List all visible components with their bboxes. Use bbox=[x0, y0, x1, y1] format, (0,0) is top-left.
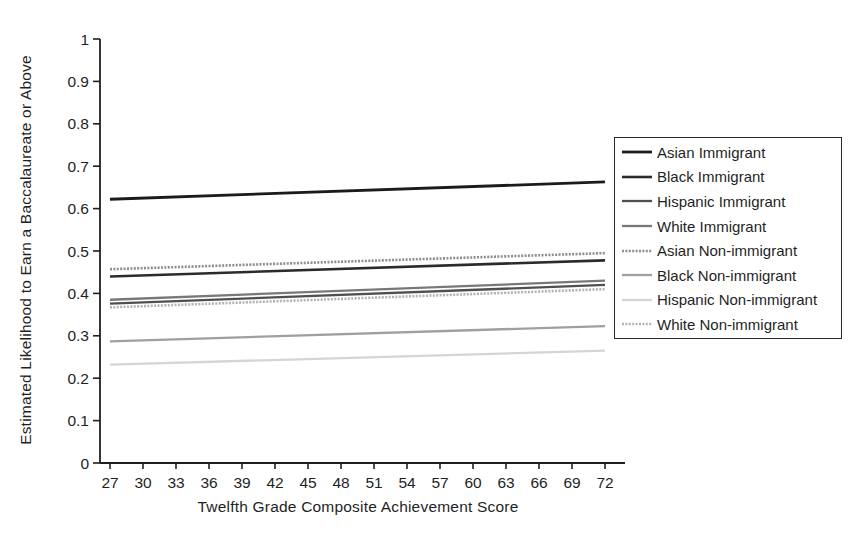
legend-item-label: White Non-immigrant bbox=[657, 316, 798, 333]
legend-item-label: Hispanic Non-immigrant bbox=[657, 291, 817, 308]
x-tick-label: 54 bbox=[398, 474, 416, 491]
y-tick-label: 0.3 bbox=[67, 327, 89, 344]
legend-item-label: White Immigrant bbox=[657, 218, 766, 235]
y-tick-label: 0.8 bbox=[67, 115, 89, 132]
y-tick-label: 0.5 bbox=[67, 243, 89, 260]
x-tick-label: 27 bbox=[101, 474, 118, 491]
x-tick-label: 33 bbox=[167, 474, 184, 491]
series-line-asian-non-immigrant bbox=[110, 253, 605, 269]
legend-item: White Non-immigrant bbox=[620, 312, 841, 337]
x-tick-label: 48 bbox=[332, 474, 349, 491]
x-tick-label: 66 bbox=[530, 474, 547, 491]
legend-line-swatch bbox=[620, 246, 654, 256]
x-tick-label: 69 bbox=[563, 474, 580, 491]
x-tick-label: 36 bbox=[200, 474, 217, 491]
x-tick-label: 63 bbox=[497, 474, 514, 491]
series-line-black-non-immigrant bbox=[110, 326, 605, 341]
legend-item: Asian Non-immigrant bbox=[620, 238, 841, 263]
x-tick-label: 42 bbox=[266, 474, 283, 491]
legend: Asian ImmigrantBlack ImmigrantHispanic I… bbox=[614, 137, 842, 339]
figure: 00.10.20.30.40.50.60.70.80.9127303336394… bbox=[0, 0, 867, 544]
series-line-hispanic-immigrant bbox=[110, 285, 605, 304]
legend-item: White Immigrant bbox=[620, 214, 841, 239]
legend-line-swatch bbox=[620, 221, 654, 231]
legend-line-swatch bbox=[620, 295, 654, 305]
x-tick-label: 51 bbox=[365, 474, 382, 491]
legend-line-swatch bbox=[620, 319, 654, 329]
x-tick-label: 60 bbox=[464, 474, 482, 491]
legend-item: Black Immigrant bbox=[620, 165, 841, 190]
y-tick-label: 0.7 bbox=[67, 158, 89, 175]
y-tick-label: 0.1 bbox=[67, 412, 89, 429]
y-tick-label: 0.6 bbox=[67, 200, 89, 217]
legend-item-label: Asian Immigrant bbox=[657, 144, 765, 161]
x-tick-label: 30 bbox=[134, 474, 152, 491]
x-tick-label: 45 bbox=[299, 474, 316, 491]
series-line-hispanic-non-immigrant bbox=[110, 351, 605, 365]
series-line-asian-immigrant bbox=[110, 182, 605, 199]
legend-item-label: Black Immigrant bbox=[657, 168, 765, 185]
x-axis-title: Twelfth Grade Composite Achievement Scor… bbox=[198, 498, 519, 516]
legend-line-swatch bbox=[620, 270, 654, 280]
legend-item-label: Black Non-immigrant bbox=[657, 267, 796, 284]
y-tick-label: 0.4 bbox=[67, 285, 89, 302]
legend-line-swatch bbox=[620, 147, 654, 157]
y-tick-label: 0 bbox=[80, 455, 89, 472]
legend-item-label: Hispanic Immigrant bbox=[657, 193, 785, 210]
y-tick-label: 0.2 bbox=[67, 370, 89, 387]
y-tick-label: 0.9 bbox=[67, 73, 89, 90]
y-axis-title: Estimated Likelihood to Earn a Baccalaur… bbox=[17, 55, 35, 445]
legend-line-swatch bbox=[620, 196, 654, 206]
series-line-white-immigrant bbox=[110, 281, 605, 300]
legend-item-label: Asian Non-immigrant bbox=[657, 242, 797, 259]
legend-item: Hispanic Immigrant bbox=[620, 189, 841, 214]
x-tick-label: 72 bbox=[596, 474, 613, 491]
legend-line-swatch bbox=[620, 172, 654, 182]
legend-item: Black Non-immigrant bbox=[620, 263, 841, 288]
series-line-black-immigrant bbox=[110, 260, 605, 276]
x-tick-label: 39 bbox=[233, 474, 250, 491]
legend-item: Asian Immigrant bbox=[620, 140, 841, 165]
y-tick-label: 1 bbox=[80, 31, 89, 48]
legend-item: Hispanic Non-immigrant bbox=[620, 288, 841, 313]
series-line-white-non-immigrant bbox=[110, 289, 605, 307]
x-tick-label: 57 bbox=[431, 474, 448, 491]
